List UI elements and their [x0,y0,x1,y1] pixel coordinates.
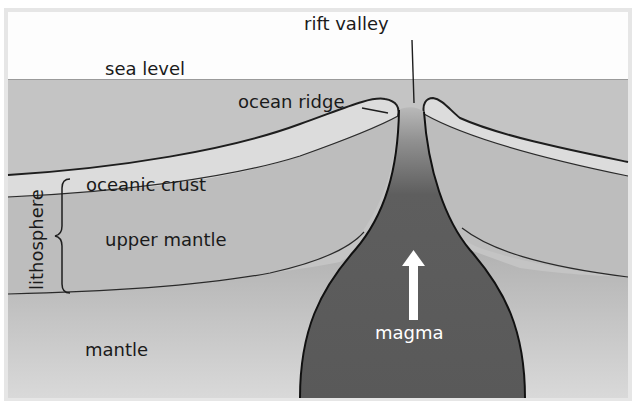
mid-ocean-ridge-diagram: rift valley sea level ocean ridge oceani… [0,0,637,404]
label-ocean-ridge: ocean ridge [238,91,344,112]
label-mantle: mantle [85,339,148,360]
label-rift-valley: rift valley [304,13,389,34]
label-lithosphere: lithosphere [26,189,47,290]
label-magma: magma [375,322,444,343]
label-upper-mantle: upper mantle [105,229,227,250]
label-sea-level: sea level [105,58,185,79]
label-oceanic-crust: oceanic crust [86,174,206,195]
